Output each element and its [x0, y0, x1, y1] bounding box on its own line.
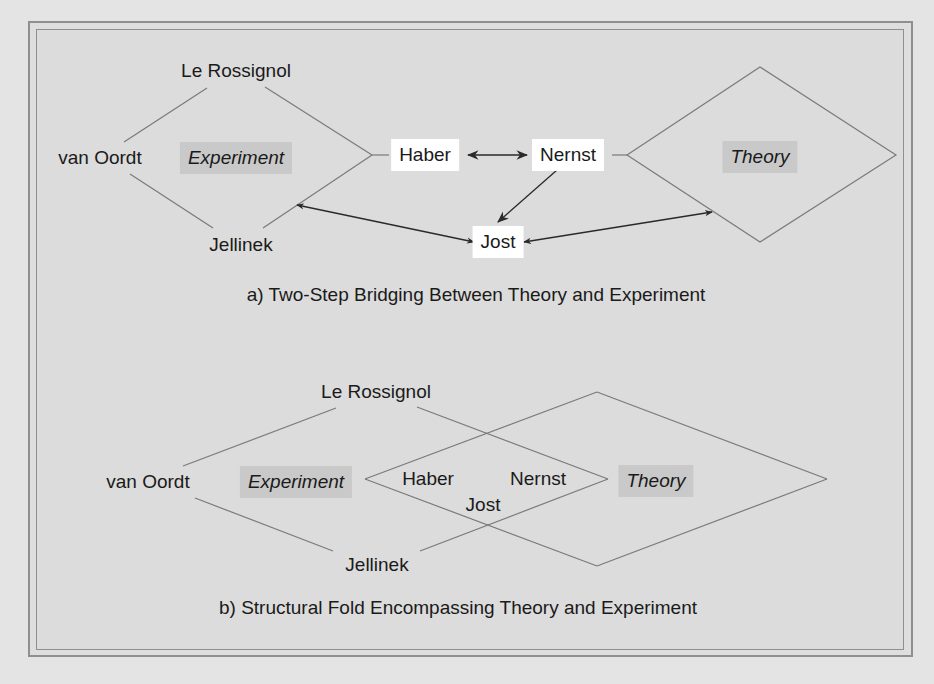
panel-b-haber-label: Haber [402, 468, 454, 490]
panel-a-jost-label: Jost [473, 226, 524, 258]
panel-b-theory-label: Theory [618, 465, 693, 497]
panel-a-le-rossignol-label: Le Rossignol [181, 60, 291, 82]
panel-b-jellinek-label: Jellinek [345, 554, 408, 576]
panel-a-theory-label: Theory [722, 141, 797, 173]
panel-a-haber-label: Haber [391, 139, 459, 171]
panel-b-nernst-label: Nernst [510, 468, 566, 490]
panel-b-caption: b) Structural Fold Encompassing Theory a… [219, 597, 697, 619]
panel-a-nernst-label: Nernst [532, 139, 604, 171]
panel-b-jost-label: Jost [466, 494, 501, 516]
panel-b-van-oordt-label: van Oordt [106, 471, 189, 493]
panel-a-caption: a) Two-Step Bridging Between Theory and … [247, 284, 706, 306]
diagram-lines [0, 0, 934, 684]
panel-b-le-rossignol-label: Le Rossignol [321, 381, 431, 403]
panel-a-van-oordt-label: van Oordt [58, 147, 141, 169]
panel-b-experiment-label: Experiment [240, 466, 352, 498]
panel-a-jellinek-label: Jellinek [209, 234, 272, 256]
panel-a-experiment-label: Experiment [180, 142, 292, 174]
